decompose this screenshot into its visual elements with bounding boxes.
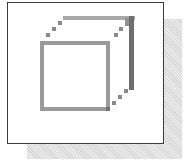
cube-back-face	[63, 16, 135, 90]
cube-diagonals	[46, 21, 128, 105]
cube-icon	[0, 0, 189, 161]
cube-front-face	[42, 43, 110, 111]
